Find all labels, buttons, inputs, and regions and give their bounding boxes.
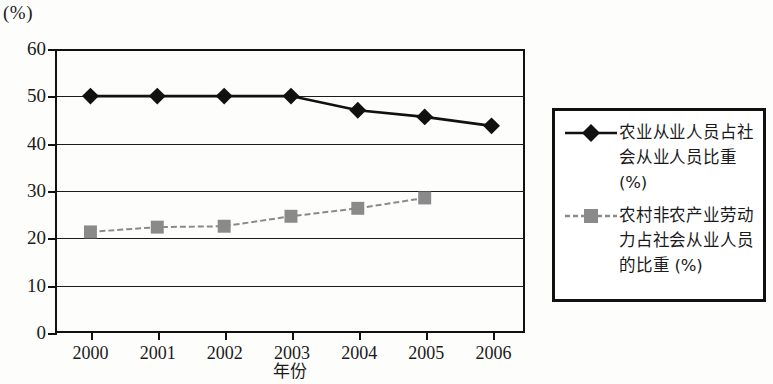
square-marker-icon [151, 221, 164, 234]
legend: 农业从业人员占社会从业人员比重 (%) 农村非农产业劳动力占社会从业人员的比重 … [552, 108, 766, 302]
square-marker-icon [84, 225, 97, 238]
diamond-marker-icon [216, 88, 233, 105]
y-tick-label: 10 [27, 274, 46, 296]
diamond-marker-icon [563, 122, 619, 144]
x-tick [225, 331, 227, 340]
y-tick-label: 0 [37, 322, 47, 344]
y-tick-label: 50 [27, 85, 46, 107]
x-tick-label: 2004 [341, 343, 377, 364]
square-marker-icon [351, 202, 364, 215]
y-tick [48, 333, 57, 335]
y-tick [48, 144, 57, 146]
y-tick-label: 30 [27, 180, 46, 202]
diamond-marker-icon [349, 102, 366, 119]
x-tick [158, 331, 160, 340]
square-marker-icon [285, 210, 298, 223]
x-tick-label: 2005 [408, 343, 444, 364]
diamond-marker-icon [416, 108, 433, 125]
x-tick-label: 2003 [274, 343, 310, 364]
diamond-marker-icon [483, 117, 500, 134]
series-layer [57, 49, 525, 332]
x-tick [91, 331, 93, 340]
square-marker-icon [218, 220, 231, 233]
x-tick-label: 2002 [207, 343, 243, 364]
diamond-marker-icon [149, 88, 166, 105]
square-marker-icon [563, 205, 619, 227]
y-tick [48, 238, 57, 240]
x-tick [359, 331, 361, 340]
legend-entry-0: 农业从业人员占社会从业人员比重 (%) [563, 120, 757, 195]
series-line [90, 198, 424, 232]
y-tick-label: 20 [27, 227, 46, 249]
y-tick [48, 96, 57, 98]
y-tick-label: 40 [27, 132, 46, 154]
y-tick-label: 60 [27, 38, 46, 60]
diamond-marker-icon [283, 88, 300, 105]
x-tick [493, 331, 495, 340]
diamond-marker-icon [82, 88, 99, 105]
x-tick-label: 2001 [140, 343, 176, 364]
square-marker-icon [418, 191, 431, 204]
x-tick [426, 331, 428, 340]
y-tick [48, 49, 57, 51]
legend-label-0: 农业从业人员占社会从业人员比重 (%) [619, 120, 757, 195]
legend-label-1: 农村非农产业劳动力占社会从业人员的比重 (%) [619, 203, 757, 278]
x-tick-label: 2006 [475, 343, 511, 364]
x-tick [292, 331, 294, 340]
chart-page: (%) 0102030405060 2000200120022003200420… [0, 0, 773, 384]
x-tick-label: 2000 [73, 343, 109, 364]
legend-entry-1: 农村非农产业劳动力占社会从业人员的比重 (%) [563, 203, 757, 278]
y-tick [48, 286, 57, 288]
plot-area: 0102030405060 20002001200220032004200520… [55, 49, 525, 333]
y-tick [48, 191, 57, 193]
y-axis-unit-label: (%) [3, 2, 33, 24]
